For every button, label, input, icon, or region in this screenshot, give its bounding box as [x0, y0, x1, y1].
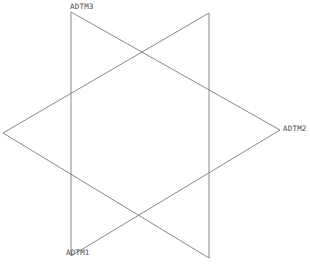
triangle-right-pointing — [71, 12, 280, 256]
star-diagram-svg — [0, 0, 310, 264]
datum-label-adtm2: ADTM2 — [283, 124, 307, 133]
datum-diagram-canvas: ADTM3 ADTM2 ADTM1 — [0, 0, 310, 264]
datum-label-adtm1: ADTM1 — [66, 248, 90, 257]
datum-label-adtm3: ADTM3 — [70, 2, 94, 11]
triangle-left-pointing — [3, 13, 209, 258]
